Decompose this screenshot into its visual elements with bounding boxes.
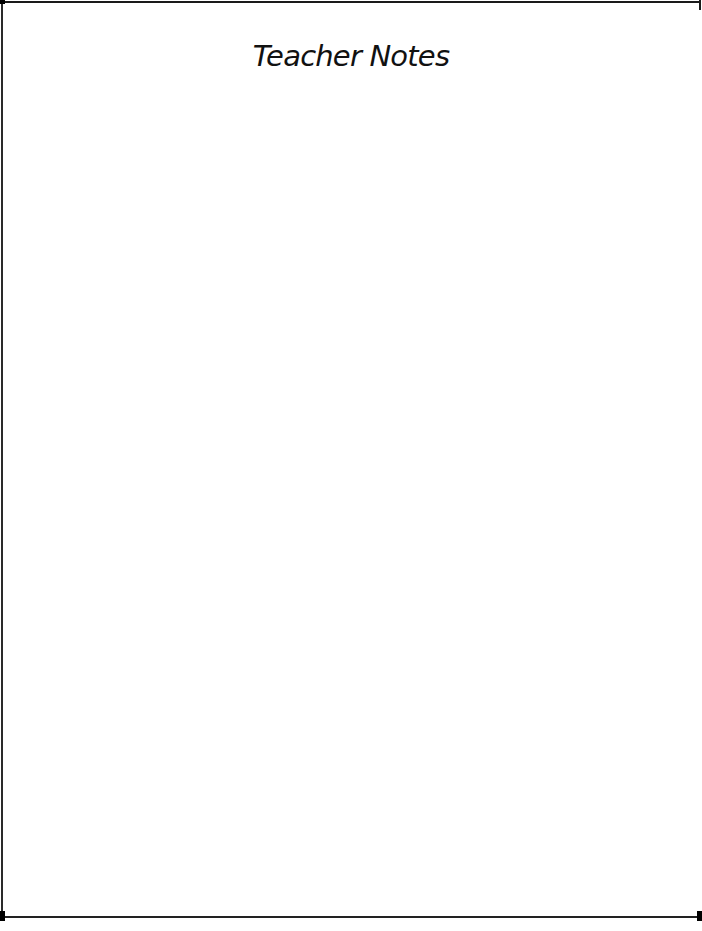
bottom-border-rule (5, 916, 697, 918)
top-border-rule (4, 1, 700, 3)
bottom-right-corner-mark (697, 911, 702, 921)
bottom-left-corner-mark (0, 911, 5, 921)
left-border-rule (1, 2, 3, 914)
page-title: Teacher Notes (0, 36, 702, 76)
top-left-corner-mark (0, 0, 5, 4)
worksheet-page: Teacher Notes (0, 0, 702, 931)
right-border-tick (699, 0, 701, 10)
notes-blank-area (8, 90, 694, 905)
